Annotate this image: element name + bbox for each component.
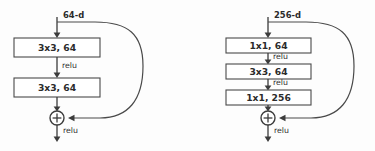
bottleneck-relu-1-label: relu	[273, 52, 288, 61]
bottleneck-layer-3-label: 1x1, 256	[246, 92, 291, 103]
bottleneck-residual-block: 1x1, 64 relu 3x3, 64 relu 1x1, 256	[226, 10, 354, 142]
basic-skip-arrowhead	[68, 115, 75, 121]
bottleneck-input-dim-label: 256-d	[274, 10, 301, 20]
basic-relu-out-label: relu	[63, 126, 78, 135]
basic-input-arrowhead	[54, 33, 61, 39]
basic-relu-1-label: relu	[62, 61, 77, 70]
bottleneck-layer-1-label: 1x1, 64	[249, 40, 287, 51]
basic-skip-connection-path	[57, 22, 143, 118]
residual-block-figure: 3x3, 64 relu 3x3, 64 relu 64-d	[0, 0, 375, 151]
bottleneck-input-arrowhead	[265, 33, 272, 39]
bottleneck-layer-2-label: 3x3, 64	[249, 66, 287, 77]
diagram-canvas: 3x3, 64 relu 3x3, 64 relu 64-d	[0, 0, 375, 151]
basic-layer-2-label: 3x3, 64	[38, 82, 76, 93]
bottleneck-skip-arrowhead	[279, 115, 286, 121]
basic-layer-1-label: 3x3, 64	[38, 42, 76, 53]
bottleneck-output-arrowhead	[265, 137, 272, 143]
basic-output-arrowhead	[54, 137, 61, 143]
basic-residual-block: 3x3, 64 relu 3x3, 64 relu 64-d	[14, 10, 143, 142]
bottleneck-relu-2-label: relu	[273, 78, 288, 87]
basic-input-dim-label: 64-d	[63, 10, 84, 20]
basic-relu-1-arrowhead	[54, 73, 61, 79]
bottleneck-relu-out-label: relu	[274, 126, 289, 135]
